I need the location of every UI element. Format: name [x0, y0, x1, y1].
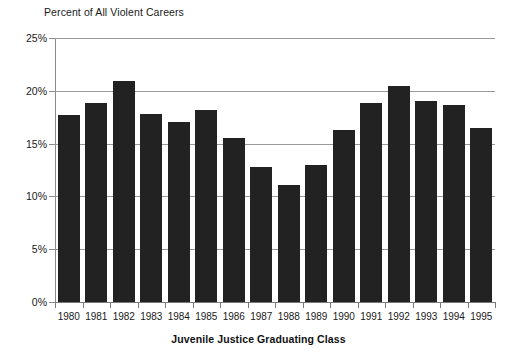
plot-area [55, 38, 495, 302]
x-tick-mark [468, 302, 469, 308]
x-tick-mark [275, 302, 276, 308]
x-tick-mark [440, 302, 441, 308]
y-axis-tick-label: 0% [5, 296, 47, 308]
bar-1980 [58, 115, 80, 302]
chart-page: Percent of All Violent Careers 0%5%10%15… [0, 0, 517, 362]
bar-1994 [443, 105, 465, 302]
x-tick-mark [110, 302, 111, 308]
bar-1993 [415, 101, 437, 302]
bar-1986 [223, 138, 245, 302]
x-tick-mark [385, 302, 386, 308]
x-tick-mark [413, 302, 414, 308]
x-tick-mark [303, 302, 304, 308]
x-tick-mark [358, 302, 359, 308]
bar-1995 [470, 128, 492, 302]
bar-1989 [305, 165, 327, 302]
x-tick-mark [330, 302, 331, 308]
bar-1985 [195, 110, 217, 302]
bar-1991 [360, 103, 382, 302]
x-tick-mark [220, 302, 221, 308]
bar-1987 [250, 167, 272, 302]
x-tick-mark [248, 302, 249, 308]
x-axis-tick-label-1995: 1995 [461, 311, 501, 322]
x-tick-mark [193, 302, 194, 308]
bar-1990 [333, 130, 355, 302]
y-axis-title: Percent of All Violent Careers [44, 6, 184, 18]
y-axis-tick-label: 20% [5, 85, 47, 97]
y-axis-tick-label: 5% [5, 243, 47, 255]
bar-1982 [113, 81, 135, 302]
bar-1983 [140, 114, 162, 302]
bar-1988 [278, 185, 300, 302]
x-axis: 1980198119821983198419851986198719881989… [55, 302, 496, 362]
x-tick-mark [83, 302, 84, 308]
x-tick-mark [165, 302, 166, 308]
x-tick-mark [55, 302, 56, 308]
y-axis-tick-label: 10% [5, 190, 47, 202]
bar-1984 [168, 122, 190, 302]
x-axis-title: Juvenile Justice Graduating Class [0, 333, 517, 345]
y-axis-tick-label: 15% [5, 138, 47, 150]
bar-1981 [85, 103, 107, 302]
x-tick-mark [495, 302, 496, 308]
gridline-25% [55, 38, 495, 39]
x-tick-mark [138, 302, 139, 308]
y-axis-tick-label: 25% [5, 32, 47, 44]
y-axis-labels: 0%5%10%15%20%25% [0, 0, 47, 362]
bar-1992 [388, 86, 410, 302]
